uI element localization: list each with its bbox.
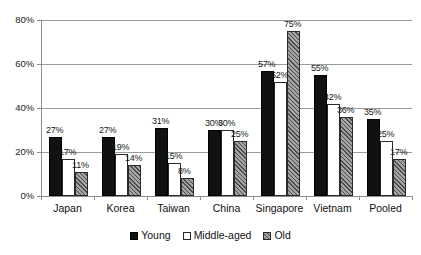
bar-group: 30%30%25% [208,20,247,196]
bar-value-label: 75% [284,20,301,29]
bar-group: 35%25%17% [367,20,406,196]
bar-value-label: 30% [218,119,235,128]
bar-value-label: 31% [152,117,169,126]
bar-value-label: 8% [178,167,191,176]
bar-china-old [234,141,247,196]
bar-value-label: 25% [231,130,248,139]
bar-singapore-old [287,31,300,196]
y-tick-label: 20% [0,147,34,157]
bar-value-label: 27% [99,126,116,135]
bar-group: 55%42%36% [314,20,353,196]
grouped-bar-chart: 0%20%40%60%80% 27%17%11%27%19%14%31%15%8… [0,0,421,255]
bar-value-label: 42% [324,93,341,102]
bar-singapore-young [261,71,274,196]
bar-group: 57%52%75% [261,20,300,196]
x-tick-mark [41,196,42,200]
bar-group: 31%15%8% [155,20,194,196]
bar-value-label: 27% [46,126,63,135]
chart-legend: YoungMiddle-agedOld [0,230,421,241]
y-axis-line [41,20,42,197]
bar-value-label: 36% [337,106,354,115]
bar-pooled-old [393,159,406,196]
bar-group: 27%19%14% [102,20,141,196]
bar-value-label: 11% [72,161,89,170]
x-axis-line [41,196,412,197]
x-category-label-taiwan: Taiwan [147,202,200,214]
x-category-label-vietnam: Vietnam [306,202,359,214]
x-tick-mark [306,196,307,200]
bar-value-label: 52% [271,71,288,80]
legend-item-middle: Middle-aged [183,230,252,241]
bar-value-label: 35% [364,108,381,117]
y-tick-label: 0% [0,191,34,201]
y-tick-label: 60% [0,59,34,69]
bar-value-label: 17% [59,148,76,157]
bar-korea-old [128,165,141,196]
legend-label: Middle-aged [194,230,252,241]
x-tick-mark [253,196,254,200]
x-tick-mark [412,196,413,200]
bar-china-young [208,130,221,196]
bar-value-label: 57% [258,60,275,69]
bar-value-label: 15% [165,152,182,161]
bar-value-label: 25% [377,130,394,139]
legend-label: Old [274,230,290,241]
bar-vietnam-middle [327,104,340,196]
bar-singapore-middle [274,82,287,196]
x-category-label-pooled: Pooled [359,202,412,214]
x-category-label-singapore: Singapore [253,202,306,214]
legend-swatch-young-icon [130,232,138,240]
bar-value-label: 17% [390,148,407,157]
legend-swatch-middle-icon [183,232,191,240]
bar-japan-young [49,137,62,196]
legend-item-old: Old [263,230,290,241]
y-tick-label: 40% [0,103,34,113]
bar-value-label: 14% [125,154,142,163]
bar-value-label: 19% [112,143,129,152]
bar-value-label: 55% [311,64,328,73]
bar-taiwan-old [181,178,194,196]
y-tick-label: 80% [0,15,34,25]
legend-swatch-old-icon [263,232,271,240]
x-category-label-china: China [200,202,253,214]
x-category-label-japan: Japan [41,202,94,214]
legend-item-young: Young [130,230,170,241]
x-tick-mark [94,196,95,200]
legend-label: Young [141,230,170,241]
bar-group: 27%17%11% [49,20,88,196]
x-category-label-korea: Korea [94,202,147,214]
x-tick-mark [359,196,360,200]
bar-taiwan-young [155,128,168,196]
bar-japan-old [75,172,88,196]
x-tick-mark [200,196,201,200]
bar-china-middle [221,130,234,196]
x-tick-mark [147,196,148,200]
bar-vietnam-old [340,117,353,196]
